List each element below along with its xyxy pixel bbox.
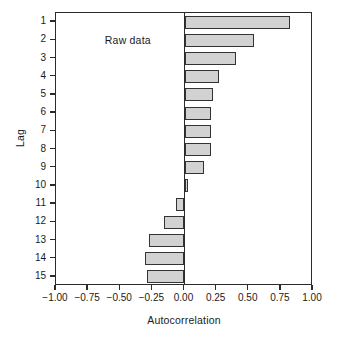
y-tick-label-lag-8: 8 [18, 143, 46, 154]
x-tick [54, 285, 55, 290]
bar-lag-8 [185, 143, 212, 156]
y-tick-label-lag-13: 13 [18, 234, 46, 245]
y-tick-label-lag-14: 14 [18, 252, 46, 263]
y-tick-label-lag-11: 11 [18, 197, 46, 208]
x-axis-label: Autocorrelation [55, 314, 313, 326]
bar-lag-2 [185, 34, 254, 47]
y-tick-label-lag-6: 6 [18, 106, 46, 117]
y-tick-label-lag-9: 9 [18, 161, 46, 172]
y-tick-label-lag-4: 4 [18, 70, 46, 81]
bar-lag-3 [185, 52, 236, 65]
bar-lag-4 [185, 70, 220, 83]
plot-area: Raw data [55, 12, 312, 285]
x-tick [119, 285, 120, 290]
y-tick-label-lag-1: 1 [18, 15, 46, 26]
y-tick-label-lag-2: 2 [18, 33, 46, 44]
y-tick-label-lag-10: 10 [18, 179, 46, 190]
bar-lag-12 [164, 216, 185, 229]
bar-lag-6 [185, 107, 212, 120]
y-tick-label-lag-3: 3 [18, 52, 46, 63]
x-tick-label: 1.00 [290, 292, 334, 303]
autocorrelation-chart: Lag Autocorrelation 12345678910111213141… [0, 0, 340, 338]
y-tick-label-lag-7: 7 [18, 124, 46, 135]
x-tick [279, 285, 280, 290]
bar-lag-1 [185, 16, 290, 29]
y-tick-label-lag-5: 5 [18, 88, 46, 99]
x-tick [86, 285, 87, 290]
x-tick [215, 285, 216, 290]
bar-lag-14 [145, 252, 185, 265]
bar-lag-11 [176, 198, 185, 211]
y-tick-label-lag-15: 15 [18, 270, 46, 281]
x-tick [247, 285, 248, 290]
bar-lag-10 [185, 179, 189, 192]
bar-lag-13 [149, 234, 185, 247]
x-tick [311, 285, 312, 290]
x-tick [151, 285, 152, 290]
x-tick [183, 285, 184, 290]
bar-lag-9 [185, 161, 205, 174]
y-tick-label-lag-12: 12 [18, 215, 46, 226]
bar-lag-5 [185, 88, 213, 101]
bar-lag-7 [185, 125, 212, 138]
bar-lag-15 [147, 270, 184, 283]
chart-annotation: Raw data [105, 34, 151, 46]
